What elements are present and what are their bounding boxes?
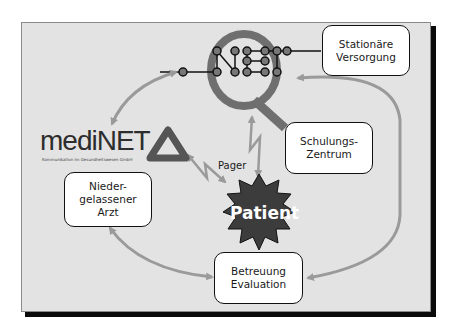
node-stationaere-versorgung[interactable]: Stationäre Versorgung xyxy=(322,25,410,76)
lightning-qnet-patient xyxy=(250,117,260,176)
patient-label: Patient xyxy=(230,203,299,223)
node-schulungszentrum[interactable]: Schulungs- Zentrum xyxy=(285,122,373,174)
arrow-arzt-betreuung xyxy=(110,228,212,277)
node-betreuung-evaluation[interactable]: Betreuung Evaluation xyxy=(214,252,303,304)
network-dots-icon xyxy=(160,47,321,76)
node-niedergelassener-arzt[interactable]: Nieder- gelassener Arzt xyxy=(64,172,152,227)
medinet-logo-subtitle: Kommunikation im Gesundheitswesen GmbH xyxy=(42,157,132,162)
triangle-logo-icon xyxy=(150,130,186,158)
pager-label: Pager xyxy=(218,160,246,171)
arrow-medinet-qnet xyxy=(112,72,176,124)
arrow-stationaer-betreuung xyxy=(298,77,400,278)
medinet-logo-wordmark: mediNET xyxy=(40,125,150,157)
